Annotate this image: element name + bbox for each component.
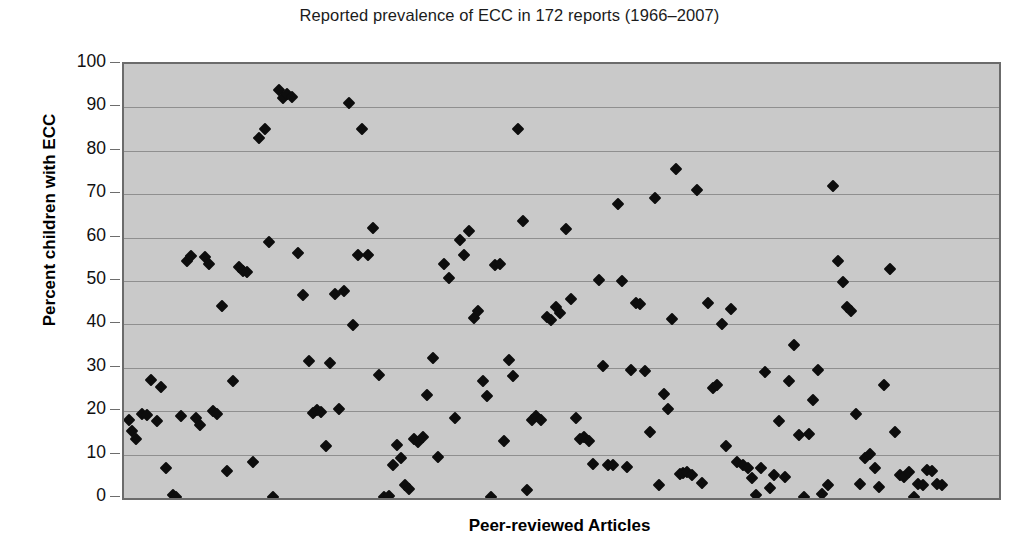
data-point	[701, 297, 714, 310]
data-point	[421, 388, 434, 401]
data-point	[443, 272, 456, 285]
gridline	[124, 368, 999, 369]
data-point	[569, 411, 582, 424]
gridline	[124, 238, 999, 239]
y-axis-tick-label: 100	[42, 53, 106, 71]
data-point	[669, 162, 682, 175]
data-point	[361, 248, 374, 261]
data-point	[593, 274, 606, 287]
data-point	[620, 460, 633, 473]
data-point	[639, 365, 652, 378]
gridline	[124, 107, 999, 108]
chart-title: Reported prevalence of ECC in 172 report…	[0, 6, 1019, 25]
data-point	[463, 224, 476, 237]
data-point	[807, 394, 820, 407]
y-axis-tick-mark	[110, 496, 120, 497]
y-axis-tick-mark	[110, 366, 120, 367]
data-point	[720, 440, 733, 453]
data-point	[247, 456, 260, 469]
data-point	[560, 223, 573, 236]
data-point	[476, 375, 489, 388]
y-axis-tick-label: 0	[42, 487, 106, 505]
data-point	[124, 414, 135, 427]
data-point	[333, 403, 346, 416]
data-point	[868, 462, 881, 475]
gridline	[124, 324, 999, 325]
data-point	[347, 318, 360, 331]
data-point	[535, 414, 548, 427]
data-point	[888, 426, 901, 439]
data-point	[802, 427, 815, 440]
data-point	[216, 299, 229, 312]
data-point	[625, 363, 638, 376]
data-point	[873, 480, 886, 493]
data-point	[836, 275, 849, 288]
data-point	[587, 458, 600, 471]
y-axis-tick-label: 70	[42, 183, 106, 201]
data-point	[754, 462, 767, 475]
data-point	[787, 338, 800, 351]
y-axis-tick-mark	[110, 453, 120, 454]
data-point	[296, 289, 309, 302]
y-axis-tick-mark	[110, 279, 120, 280]
data-point	[597, 360, 610, 373]
gridline	[124, 151, 999, 152]
data-point	[643, 425, 656, 438]
data-point	[448, 411, 461, 424]
data-point	[227, 374, 240, 387]
gridline	[124, 281, 999, 282]
gridline	[124, 411, 999, 412]
data-point	[503, 354, 516, 367]
data-point	[883, 263, 896, 276]
y-axis-tick-mark	[110, 409, 120, 410]
data-point	[797, 490, 810, 498]
y-axis-tick-mark	[110, 322, 120, 323]
data-point	[653, 479, 666, 492]
y-axis-tick-mark	[110, 192, 120, 193]
y-axis-tick-mark	[110, 62, 120, 63]
y-axis-tick-label: 20	[42, 400, 106, 418]
data-point	[484, 490, 497, 498]
y-axis-tick-label: 30	[42, 357, 106, 375]
data-point	[356, 123, 369, 136]
plot-area	[124, 64, 999, 498]
data-point	[878, 379, 891, 392]
data-point	[662, 403, 675, 416]
data-point	[832, 255, 845, 268]
data-point	[431, 450, 444, 463]
data-point	[854, 477, 867, 490]
y-axis-tick-label: 60	[42, 227, 106, 245]
data-point	[458, 249, 471, 262]
data-point	[507, 370, 520, 383]
data-point	[160, 461, 173, 474]
data-point	[292, 247, 305, 260]
data-point	[516, 214, 529, 227]
data-point	[302, 354, 315, 367]
data-point	[512, 123, 525, 136]
data-point	[616, 275, 629, 288]
data-point	[827, 180, 840, 193]
y-axis-tick-mark	[110, 236, 120, 237]
y-axis-tick-mark	[110, 149, 120, 150]
data-point	[845, 305, 858, 318]
data-point	[783, 375, 796, 388]
data-point	[480, 389, 493, 402]
x-axis-title: Peer-reviewed Articles	[122, 516, 997, 536]
data-point	[319, 440, 332, 453]
data-point	[453, 234, 466, 247]
data-point	[220, 464, 233, 477]
gridline	[124, 194, 999, 195]
data-point	[151, 414, 164, 427]
y-axis-tick-label: 80	[42, 140, 106, 158]
data-point	[715, 318, 728, 331]
y-axis-tick-mark	[110, 105, 120, 106]
plot-frame	[122, 62, 1001, 500]
data-point	[498, 435, 511, 448]
y-axis-tick-label: 50	[42, 270, 106, 288]
data-point	[849, 408, 862, 421]
y-axis-tick-label: 10	[42, 444, 106, 462]
data-point	[812, 364, 825, 377]
data-point	[696, 476, 709, 489]
data-point	[778, 471, 791, 484]
data-point	[764, 482, 777, 495]
